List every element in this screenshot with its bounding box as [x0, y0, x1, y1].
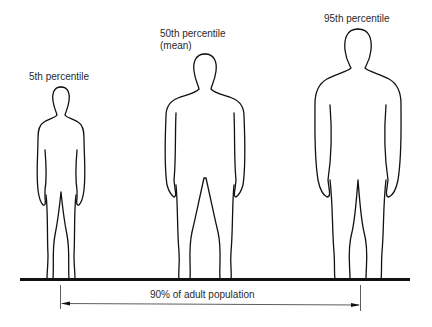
figure-5th-percentile: [37, 87, 85, 279]
dimension-label: 90% of adult population: [150, 289, 255, 300]
ground-line: [20, 278, 410, 281]
dimension-arrow-line: [62, 304, 359, 306]
arrowhead-right-icon: [351, 303, 360, 307]
label-95th-percentile: 95th percentile: [324, 13, 390, 24]
label-50th-percentile: 50th percentile: [160, 28, 226, 39]
label-50th-percentile-mean: (mean): [160, 40, 192, 51]
percentile-figures-diagram: [0, 0, 432, 327]
label-5th-percentile: 5th percentile: [29, 71, 89, 82]
arrowhead-left-icon: [61, 302, 70, 306]
figure-50th-percentile: [165, 54, 245, 279]
figure-95th-percentile: [315, 29, 401, 279]
